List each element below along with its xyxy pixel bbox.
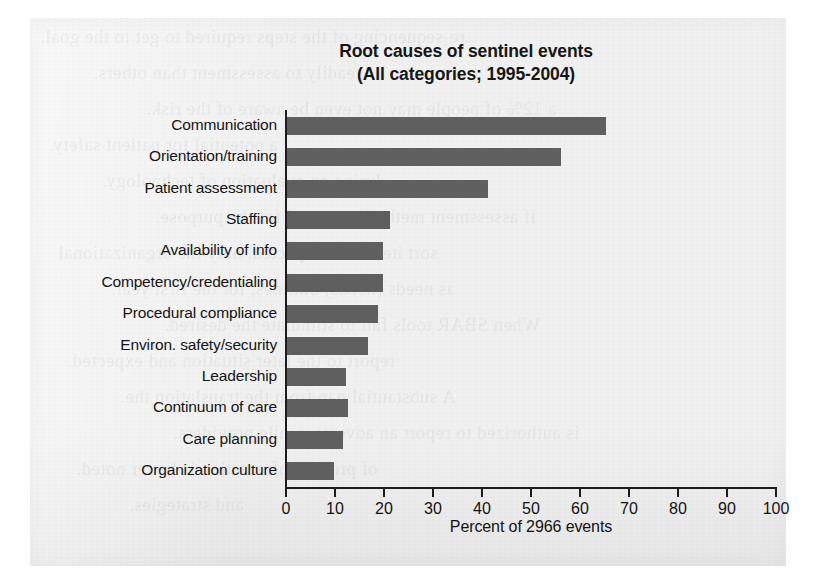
bar-row	[287, 110, 775, 141]
x-axis-tick-label: 80	[658, 500, 698, 518]
x-axis-tick-label: 100	[756, 500, 796, 518]
bar-row	[287, 393, 775, 424]
category-label: Staffing	[27, 210, 277, 228]
x-axis-tick-label: 30	[413, 500, 453, 518]
x-axis-tick	[481, 489, 483, 497]
x-axis-tick	[726, 489, 728, 497]
bar	[287, 211, 390, 229]
x-axis-tick	[775, 489, 777, 497]
bar	[287, 368, 346, 386]
category-label: Competency/credentialing	[27, 273, 277, 291]
bar-row	[287, 330, 775, 361]
x-axis-tick	[285, 489, 287, 497]
x-axis-tick-label: 0	[266, 500, 306, 518]
x-axis-title: Percent of 2966 events	[285, 518, 777, 536]
category-label: Procedural compliance	[27, 304, 277, 322]
x-axis-tick-label: 20	[364, 500, 404, 518]
x-axis-tick	[530, 489, 532, 497]
bar	[287, 148, 561, 166]
bar-chart-figure: Root causes of sentinel events (All cate…	[0, 0, 816, 584]
x-axis-tick	[579, 489, 581, 497]
x-axis-tick	[432, 489, 434, 497]
bar-row	[287, 204, 775, 235]
category-label: Organization culture	[27, 461, 277, 479]
chart-title-main: Root causes of sentinel events	[236, 40, 696, 63]
x-axis-tick	[677, 489, 679, 497]
bar	[287, 180, 488, 198]
x-axis-tick-label: 70	[609, 500, 649, 518]
category-label: Care planning	[27, 430, 277, 448]
category-label: Environ. safety/security	[27, 336, 277, 354]
bar	[287, 462, 334, 480]
x-axis-tick-label: 90	[707, 500, 747, 518]
category-axis-labels: CommunicationOrientation/trainingPatient…	[25, 110, 277, 487]
category-label: Continuum of care	[27, 398, 277, 416]
x-axis-tick-label: 10	[315, 500, 355, 518]
x-axis-tick-label: 60	[560, 500, 600, 518]
category-label: Patient assessment	[27, 179, 277, 197]
category-label: Availability of info	[27, 241, 277, 259]
bar-row	[287, 141, 775, 172]
x-axis-tick-label: 40	[462, 500, 502, 518]
bar-row	[287, 361, 775, 392]
bar-row	[287, 267, 775, 298]
bar	[287, 274, 383, 292]
chart-subtitle: (All categories; 1995-2004)	[236, 63, 696, 86]
bar	[287, 242, 383, 260]
x-axis-tick	[628, 489, 630, 497]
bar	[287, 117, 606, 135]
bar-row	[287, 299, 775, 330]
plot-area: 0102030405060708090100	[285, 110, 775, 487]
bar	[287, 337, 368, 355]
chart-title: Root causes of sentinel events (All cate…	[236, 40, 696, 86]
category-label: Communication	[27, 116, 277, 134]
category-label: Orientation/training	[27, 147, 277, 165]
bar-row	[287, 236, 775, 267]
x-axis-tick	[383, 489, 385, 497]
x-axis-tick-label: 50	[511, 500, 551, 518]
bar	[287, 305, 378, 323]
bar-row	[287, 456, 775, 487]
bar	[287, 399, 348, 417]
bar	[287, 431, 343, 449]
bar-row	[287, 424, 775, 455]
bar-row	[287, 173, 775, 204]
x-axis-tick	[334, 489, 336, 497]
category-label: Leadership	[27, 367, 277, 385]
